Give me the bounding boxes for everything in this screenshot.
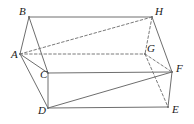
- geometry-figure: ABCDEFGH: [0, 0, 194, 124]
- vertex-point-a: [19, 53, 21, 55]
- vertex-label-c: C: [40, 68, 48, 80]
- vertex-point-g: [144, 53, 146, 55]
- vertex-point-f: [171, 71, 173, 73]
- vertex-label-g: G: [147, 42, 155, 54]
- vertex-label-a: A: [10, 48, 18, 60]
- vertex-point-d: [47, 107, 49, 109]
- vertex-label-b: B: [19, 5, 26, 17]
- vertex-label-h: H: [154, 5, 164, 17]
- vertex-label-e: E: [171, 103, 179, 115]
- vertex-point-e: [167, 106, 169, 108]
- vertex-point-c: [47, 72, 49, 74]
- vertex-point-h: [151, 16, 153, 18]
- vertex-label-d: D: [37, 104, 46, 116]
- vertex-label-f: F: [175, 62, 183, 74]
- vertex-point-b: [28, 16, 30, 18]
